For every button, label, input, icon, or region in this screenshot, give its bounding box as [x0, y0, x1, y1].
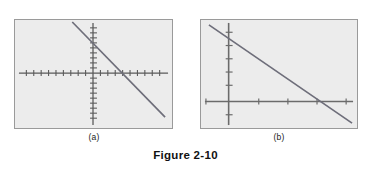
graph-a-plot	[15, 20, 172, 128]
graph-panel-b	[200, 19, 358, 129]
panel-label-a: (a)	[74, 132, 114, 142]
figure-caption: Figure 2-10	[0, 149, 371, 161]
line-plot-a	[72, 22, 165, 117]
panel-label-b: (b)	[259, 132, 299, 142]
line-plot-b	[209, 25, 352, 123]
graph-panel-a	[14, 19, 173, 129]
graph-b-plot	[201, 20, 357, 128]
figure-2-10: (a) (b) Figure 2-10	[0, 0, 371, 170]
